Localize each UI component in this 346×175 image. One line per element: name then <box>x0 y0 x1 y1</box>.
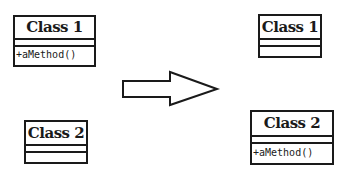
method-item: +aMethod() <box>252 144 332 161</box>
class-name: Class 1 <box>260 16 320 40</box>
arrow-shape <box>123 72 217 105</box>
attributes-compartment <box>260 40 320 47</box>
attributes-compartment <box>252 137 332 144</box>
after-class-1: Class 1 <box>258 14 322 58</box>
after-class-2: Class 2 +aMethod() <box>250 110 334 165</box>
methods-compartment <box>260 47 320 54</box>
class-name: Class 2 <box>252 112 332 137</box>
